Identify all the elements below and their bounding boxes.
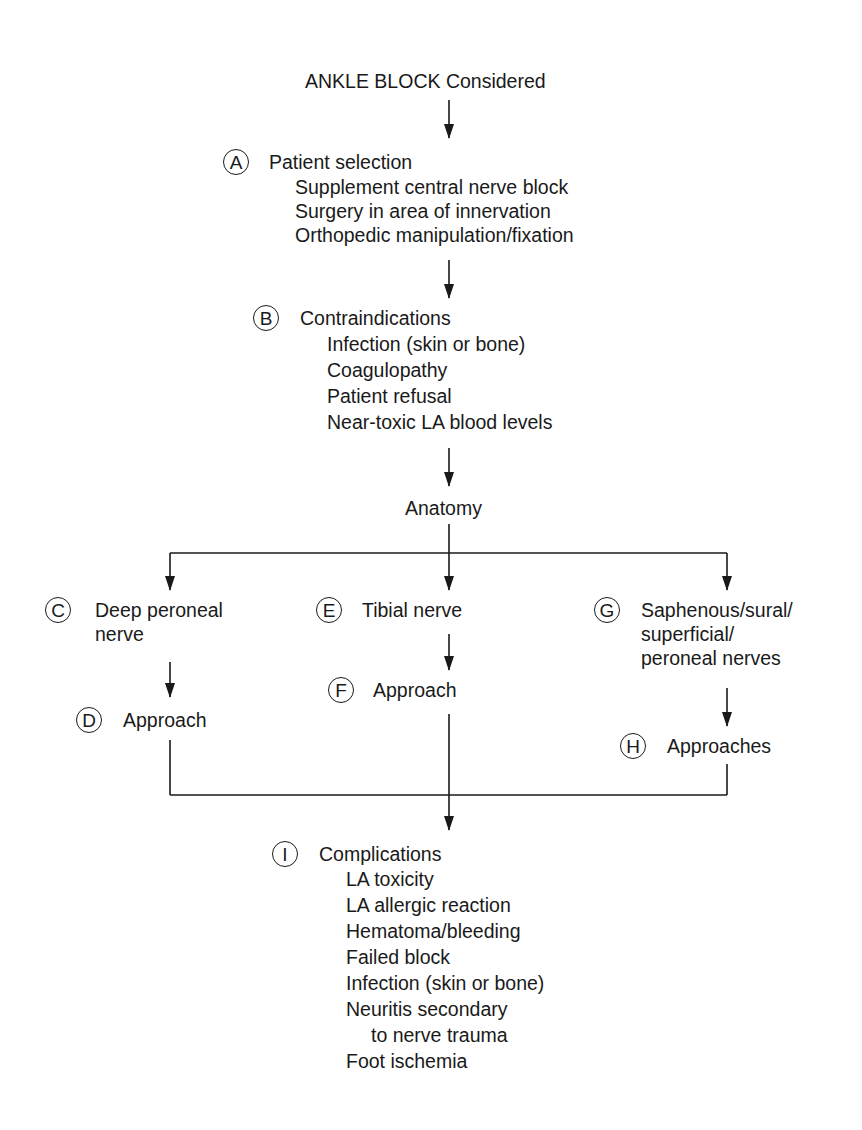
node-g-line: peroneal nerves: [641, 646, 781, 670]
node-h-heading: Approaches: [667, 734, 771, 758]
node-i-item: LA allergic reaction: [346, 893, 511, 917]
node-a-item: Orthopedic manipulation/fixation: [295, 223, 574, 247]
label-circle-h: H: [620, 733, 646, 759]
arrowhead: [444, 472, 454, 487]
node-i-heading: Complications: [319, 842, 441, 866]
node-b-item: Infection (skin or bone): [327, 332, 525, 356]
arrowhead: [444, 656, 454, 671]
node-anatomy: Anatomy: [405, 496, 482, 520]
node-f-heading: Approach: [373, 678, 456, 702]
label-circle-a: A: [223, 149, 249, 175]
label-circle-i: I: [272, 841, 298, 867]
node-c-line: nerve: [95, 622, 144, 646]
label-circle-e: E: [316, 597, 342, 623]
node-i-item: Neuritis secondary: [346, 997, 507, 1021]
diagram-title: ANKLE BLOCK Considered: [305, 69, 546, 93]
node-a-item: Supplement central nerve block: [295, 175, 568, 199]
node-i-item: Foot ischemia: [346, 1049, 467, 1073]
node-i-item: Failed block: [346, 945, 450, 969]
label-circle-b: B: [253, 305, 279, 331]
arrowhead: [722, 576, 732, 591]
node-a-heading: Patient selection: [269, 150, 412, 174]
node-a-item: Surgery in area of innervation: [295, 199, 551, 223]
label-circle-f: F: [328, 677, 354, 703]
node-b-item: Patient refusal: [327, 384, 452, 408]
label-circle-d: D: [76, 707, 102, 733]
node-b-item: Near-toxic LA blood levels: [327, 410, 552, 434]
node-c-line: Deep peroneal: [95, 598, 223, 622]
arrowhead: [165, 576, 175, 591]
arrowhead: [722, 712, 732, 727]
arrowhead: [444, 816, 454, 831]
node-b-heading: Contraindications: [300, 306, 451, 330]
node-i-item: Infection (skin or bone): [346, 971, 544, 995]
node-g-line: superficial/: [641, 622, 734, 646]
arrowhead: [444, 124, 454, 139]
node-b-item: Coagulopathy: [327, 358, 447, 382]
node-i-item: to nerve trauma: [371, 1023, 508, 1047]
label-circle-g: G: [594, 597, 620, 623]
arrowhead: [444, 576, 454, 591]
arrowhead: [444, 284, 454, 299]
node-g-line: Saphenous/sural/: [641, 598, 793, 622]
node-i-item: Hematoma/bleeding: [346, 919, 521, 943]
node-i-item: LA toxicity: [346, 867, 434, 891]
node-e-heading: Tibial nerve: [362, 598, 462, 622]
node-d-heading: Approach: [123, 708, 206, 732]
label-circle-c: C: [45, 597, 71, 623]
arrowhead: [165, 683, 175, 698]
